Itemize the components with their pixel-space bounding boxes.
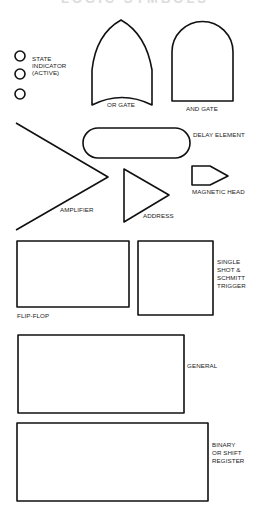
delay-element-label: DELAY ELEMENT — [193, 131, 245, 138]
single-shot-label-2: SHOT & — [217, 266, 241, 273]
delay-element-shape — [83, 128, 190, 158]
magnetic-head-label: MAGNETIC HEAD — [192, 188, 245, 195]
state-indicator-label-3: (ACTIVE) — [32, 69, 59, 76]
binary-register-label-2: OR SHIFT — [212, 449, 242, 456]
single-shot-label-4: TRIGGER — [217, 282, 246, 289]
binary-register-label-3: REGISTER — [212, 457, 244, 464]
binary-register-label-1: BINARY — [212, 441, 236, 448]
state-indicator-label-2: INDICATOR — [32, 62, 66, 69]
single-shot-shape — [138, 241, 213, 315]
state-indicator-label-1: STATE — [32, 55, 52, 62]
magnetic-head-shape — [192, 166, 228, 185]
state-indicator-circle-1 — [15, 51, 25, 61]
single-shot-label-1: SINGLE — [217, 258, 240, 265]
flip-flop-shape — [17, 241, 129, 307]
address-label: ADDRESS — [143, 212, 174, 219]
amplifier-label: AMPLIFIER — [60, 206, 94, 213]
or-gate-shape — [92, 20, 152, 105]
and-gate-shape — [172, 21, 233, 101]
amplifier-shape — [16, 123, 108, 230]
general-shape — [18, 335, 184, 413]
and-gate-label: AND GATE — [186, 105, 218, 112]
general-label: GENERAL — [187, 362, 217, 369]
state-indicator-circle-3 — [15, 89, 25, 99]
single-shot-label-3: SCHMITT — [217, 274, 245, 281]
state-indicator-circle-2 — [15, 69, 25, 79]
flip-flop-label: FLIP-FLOP — [17, 312, 49, 319]
binary-register-shape — [17, 423, 208, 501]
or-gate-label: OR GATE — [107, 101, 135, 108]
